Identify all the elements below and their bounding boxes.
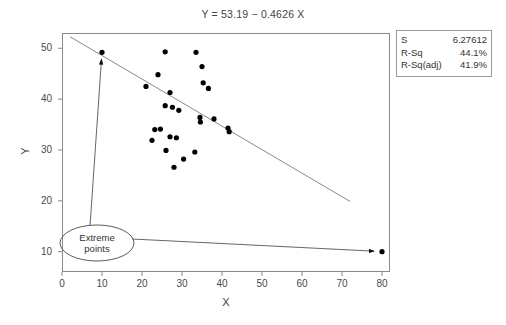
x-tick-label: 60: [287, 278, 317, 289]
y-axis-title: Y: [19, 136, 31, 166]
statistics-box: S6.27612R-Sq44.1%R-Sq(adj)41.9%: [396, 30, 492, 77]
annotation-line-1: Extreme: [63, 232, 131, 243]
statistics-row: R-Sq44.1%: [401, 47, 487, 60]
x-axis-title: X: [211, 296, 241, 308]
y-tick-label: 10: [22, 246, 52, 257]
fitted-line-plot: Y = 53.19 − 0.4626 X 0102030405060708010…: [0, 0, 506, 325]
statistics-key: S: [401, 34, 407, 47]
x-tick-label: 70: [327, 278, 357, 289]
y-tick-label: 40: [22, 93, 52, 104]
statistics-value: 6.27612: [453, 34, 487, 47]
statistics-value: 41.9%: [460, 59, 487, 72]
y-tick-label: 20: [22, 195, 52, 206]
statistics-key: R-Sq: [401, 47, 423, 60]
x-tick-label: 10: [87, 278, 117, 289]
x-tick-label: 50: [247, 278, 277, 289]
x-tick-label: 30: [167, 278, 197, 289]
x-tick-label: 80: [367, 278, 397, 289]
x-tick-label: 0: [47, 278, 77, 289]
statistics-key: R-Sq(adj): [401, 59, 442, 72]
page-title: Y = 53.19 − 0.4626 X: [0, 8, 506, 20]
annotation-label: Extreme points: [63, 232, 131, 254]
x-tick-label: 40: [207, 278, 237, 289]
x-tick-label: 20: [127, 278, 157, 289]
statistics-row: S6.27612: [401, 34, 487, 47]
statistics-value: 44.1%: [460, 47, 487, 60]
statistics-row: R-Sq(adj)41.9%: [401, 59, 487, 72]
y-tick-label: 50: [22, 42, 52, 53]
annotation-line-2: points: [63, 243, 131, 254]
